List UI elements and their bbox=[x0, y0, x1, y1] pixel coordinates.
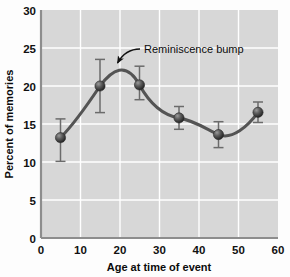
data-point-age-55 bbox=[253, 107, 263, 117]
x-tick-label-30: 30 bbox=[153, 244, 166, 256]
x-tick-label-40: 40 bbox=[193, 244, 206, 256]
x-tick-label-10: 10 bbox=[74, 244, 87, 256]
x-axis-title: Age at time of event bbox=[107, 261, 212, 273]
y-tick-label-10: 10 bbox=[23, 157, 36, 169]
y-tick-labels: 30 25 20 15 10 5 0 bbox=[23, 5, 36, 245]
annotation-reminiscence-bump: Reminiscence bump bbox=[144, 43, 244, 55]
x-tick-label-0: 0 bbox=[38, 244, 44, 256]
y-tick-label-0: 0 bbox=[30, 233, 36, 245]
x-tick-label-60: 60 bbox=[272, 244, 285, 256]
data-point-age-5 bbox=[55, 133, 65, 143]
y-tick-label-5: 5 bbox=[30, 195, 37, 207]
data-point-age-35 bbox=[174, 113, 184, 123]
reminiscence-bump-line-chart: Reminiscence bump 30 25 20 15 10 5 0 0 1… bbox=[0, 0, 290, 277]
data-point-age-25 bbox=[134, 80, 144, 90]
chart-figure: Reminiscence bump 30 25 20 15 10 5 0 0 1… bbox=[0, 0, 290, 277]
x-tick-label-50: 50 bbox=[232, 244, 245, 256]
data-point-age-15 bbox=[95, 81, 105, 91]
x-tick-label-20: 20 bbox=[114, 244, 127, 256]
y-tick-label-30: 30 bbox=[23, 5, 36, 17]
x-tick-labels: 0 10 20 30 40 50 60 bbox=[38, 244, 285, 256]
y-axis-title: Percent of memories bbox=[3, 70, 15, 179]
y-tick-label-15: 15 bbox=[23, 119, 36, 131]
y-tick-label-25: 25 bbox=[23, 43, 36, 55]
y-tick-label-20: 20 bbox=[23, 81, 36, 93]
data-point-age-45 bbox=[213, 130, 223, 140]
